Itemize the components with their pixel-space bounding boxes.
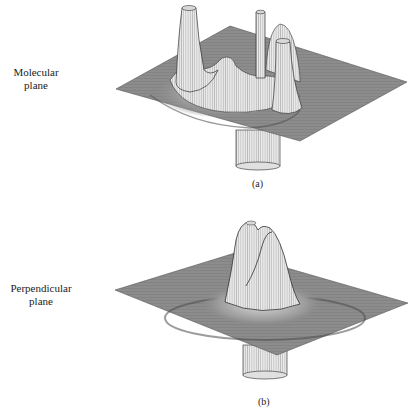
caption-b: (b) [258,396,270,407]
perpendicular-plane-surface-plot [0,0,415,413]
